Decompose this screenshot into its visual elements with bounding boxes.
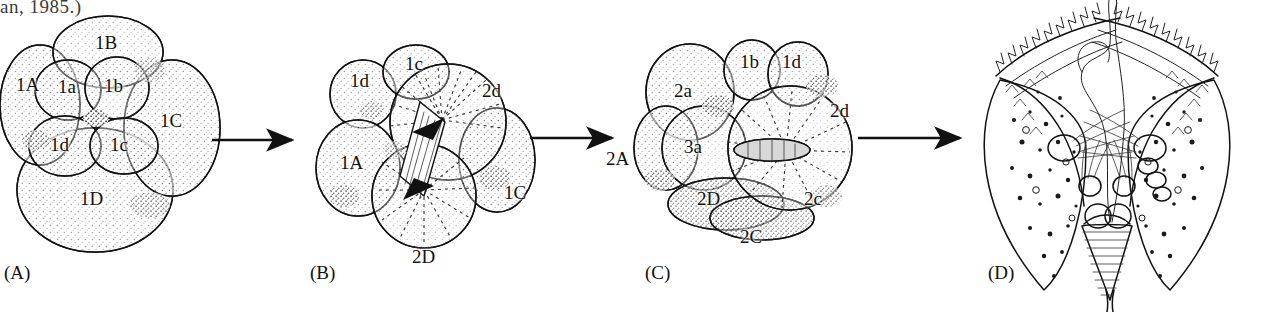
cell-label-b-2d: 2d bbox=[482, 80, 501, 102]
cell-label-1C: 1C bbox=[160, 110, 182, 132]
cell-label-1A: 1A bbox=[16, 74, 39, 96]
panel-letter-c: (C) bbox=[645, 262, 670, 284]
cell-label-1a: 1a bbox=[58, 76, 76, 98]
cell-label-b-1c: 1c bbox=[405, 53, 423, 75]
cell-label-1c: 1c bbox=[110, 134, 128, 156]
cell-label-c-2c: 2c bbox=[804, 188, 822, 210]
cell-label-c-2C: 2C bbox=[740, 226, 762, 248]
cell-label-b-1d: 1d bbox=[350, 70, 369, 92]
cell-label-1B: 1B bbox=[95, 32, 117, 54]
cell-label-c-3a: 3a bbox=[684, 136, 702, 158]
panel-letter-b: (B) bbox=[310, 262, 335, 284]
cell-label-1b: 1b bbox=[104, 75, 123, 97]
panel-letter-a: (A) bbox=[4, 262, 30, 284]
cell-label-b-1A: 1A bbox=[340, 152, 363, 174]
panel-d-group bbox=[984, 0, 1230, 312]
cell-label-b-1C: 1C bbox=[504, 182, 526, 204]
cell-label-c-2d: 2d bbox=[830, 100, 849, 122]
cell-label-c-2A: 2A bbox=[606, 148, 629, 170]
cell-label-1D: 1D bbox=[80, 188, 103, 210]
panel-b-group bbox=[316, 45, 535, 248]
cell-label-1d: 1d bbox=[50, 134, 69, 156]
cleavage-figure: an, 1985.) bbox=[0, 0, 1264, 312]
cell-label-c-1b: 1b bbox=[740, 51, 759, 73]
cell-label-c-2a: 2a bbox=[674, 80, 692, 102]
cell-label-c-2D: 2D bbox=[697, 188, 720, 210]
cell-label-b-2D: 2D bbox=[412, 246, 435, 268]
cell-label-c-1d: 1d bbox=[782, 51, 801, 73]
panel-letter-d: (D) bbox=[988, 262, 1014, 284]
panel-a-illustration bbox=[0, 0, 1264, 312]
